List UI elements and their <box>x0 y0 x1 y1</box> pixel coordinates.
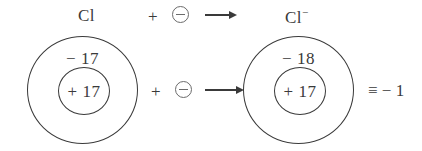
electron-circled-minus-icon <box>172 6 189 23</box>
atom-charge-diagram: Cl + Cl− − 17 + 17 + − 18 + 17 ≡ − 1 <box>0 0 422 151</box>
equivalence-symbol: ≡ <box>368 81 378 100</box>
product-charge-superscript: − <box>302 6 308 18</box>
chlorine-shell-charge-label: − 17 <box>27 50 138 67</box>
net-charge-annotation: ≡ − 1 <box>368 82 404 99</box>
product-species-label: Cl− <box>285 7 308 26</box>
net-charge-value: − 1 <box>382 81 404 100</box>
middle-reaction-arrow-icon <box>205 85 243 95</box>
reactant-species-label: Cl <box>78 7 95 24</box>
chloride-nucleus-charge-label: + 17 <box>274 83 326 100</box>
top-plus-sign: + <box>148 8 158 25</box>
chloride-ion-diagram: − 18 + 17 <box>243 36 354 144</box>
chloride-shell-charge-label: − 18 <box>243 50 354 67</box>
product-element-symbol: Cl <box>285 8 302 27</box>
chlorine-atom-diagram: − 17 + 17 <box>27 36 138 144</box>
chlorine-nucleus-charge-label: + 17 <box>58 83 110 100</box>
electron-circled-minus-icon-2 <box>175 81 192 98</box>
top-reaction-arrow-icon <box>205 10 237 20</box>
middle-plus-sign: + <box>151 83 161 100</box>
